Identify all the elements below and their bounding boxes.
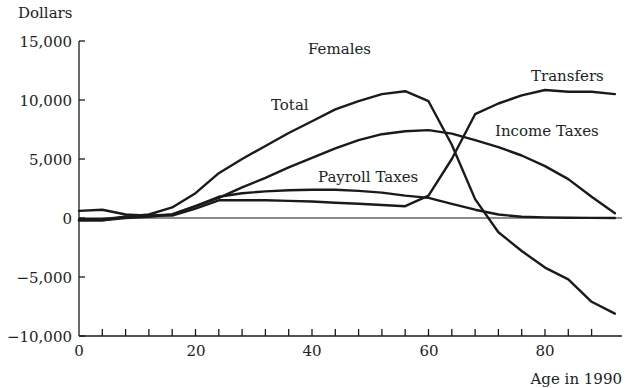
y-axis-ticks [79, 41, 85, 336]
x-tick-label: 0 [74, 342, 84, 360]
y-tick-label: −5,000 [16, 269, 72, 287]
annotation-payroll-taxes: Payroll Taxes [318, 168, 418, 186]
chart-title: Females [308, 40, 371, 58]
x-tick-label: 20 [186, 342, 205, 360]
x-tick-label: 60 [419, 342, 438, 360]
axes [79, 41, 622, 336]
x-axis-tick-labels: 0 20 40 60 80 [74, 342, 554, 360]
y-tick-label: 15,000 [20, 33, 73, 51]
y-tick-label: 0 [62, 210, 72, 228]
line-chart: Dollars 15,000 10,000 5,000 0 −5,000 −10… [0, 0, 627, 388]
x-tick-label: 40 [302, 342, 321, 360]
series-transfers-line [79, 90, 615, 216]
annotations: Females Total Transfers Income Taxes Pay… [271, 40, 604, 186]
y-axis-tick-labels: 15,000 10,000 5,000 0 −5,000 −10,000 [7, 33, 72, 346]
x-tick-label: 80 [535, 342, 554, 360]
y-tick-label: −10,000 [7, 328, 72, 346]
y-axis-title: Dollars [18, 4, 72, 22]
y-tick-label: 5,000 [29, 151, 72, 169]
annotation-income-taxes: Income Taxes [495, 122, 599, 140]
x-axis-title: Age in 1990 [530, 370, 622, 388]
y-tick-label: 10,000 [20, 92, 73, 110]
annotation-total: Total [271, 96, 309, 114]
annotation-transfers: Transfers [531, 67, 604, 85]
x-axis-ticks [102, 329, 591, 336]
